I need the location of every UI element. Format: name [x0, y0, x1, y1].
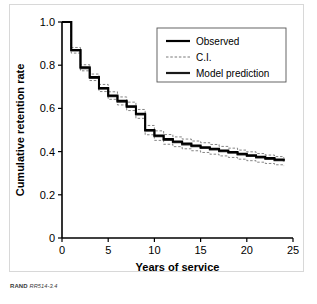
x-tick-label: 5: [105, 244, 111, 256]
y-tick-label: 0.4: [40, 146, 55, 158]
x-axis-ticks: 0510152025: [59, 238, 299, 256]
legend-label: C.I.: [196, 52, 212, 63]
rand-logo-text: RAND: [10, 283, 28, 289]
figure-number: RR514-3.4: [30, 283, 58, 289]
legend-label: Model prediction: [196, 68, 269, 79]
figure-credit: RAND RR514-3.4: [10, 283, 57, 289]
figure-container: 00.20.40.60.81.00510152025Years of servi…: [0, 0, 317, 304]
x-tick-label: 15: [194, 244, 206, 256]
legend: ObservedC.I.Model prediction: [157, 28, 286, 82]
y-axis-ticks: 00.20.40.60.81.0: [40, 16, 62, 244]
x-tick-label: 10: [148, 244, 160, 256]
x-tick-label: 0: [59, 244, 65, 256]
x-axis-title: Years of service: [136, 261, 220, 273]
y-tick-label: 1.0: [40, 16, 55, 28]
y-tick-label: 0.2: [40, 189, 55, 201]
x-tick-label: 20: [241, 244, 253, 256]
retention-chart: 00.20.40.60.81.00510152025Years of servi…: [0, 0, 317, 304]
legend-label: Observed: [196, 36, 239, 47]
y-axis-title: Cumulative retention rate: [14, 64, 26, 197]
y-tick-label: 0.8: [40, 59, 55, 71]
y-tick-label: 0: [49, 232, 55, 244]
y-tick-label: 0.6: [40, 102, 55, 114]
x-tick-label: 25: [287, 244, 299, 256]
